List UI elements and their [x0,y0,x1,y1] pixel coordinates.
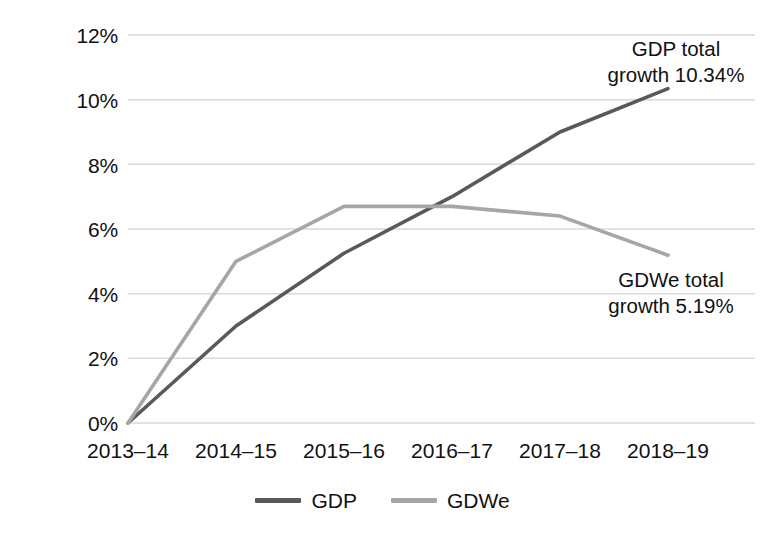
x-tick-label-2: 2015–16 [303,440,385,461]
series-line-gdp [128,89,668,423]
legend-item-gdwe[interactable]: GDWe [391,490,510,511]
legend-swatch-gdp-icon [255,498,301,503]
legend-label-gdp: GDP [311,490,357,511]
x-tick-label-4: 2017–18 [519,440,601,461]
legend-label-gdwe: GDWe [447,490,510,511]
annotation-gdp-line2: growth 10.34% [592,62,760,88]
x-tick-label-3: 2016–17 [411,440,493,461]
annotation-gdwe-line2: growth 5.19% [582,293,760,319]
annotation-gdwe-total-growth: GDWe total growth 5.19% [582,267,760,319]
legend-item-gdp[interactable]: GDP [255,490,357,511]
chart-legend: GDP GDWe [0,484,765,516]
legend-swatch-gdwe-icon [391,498,437,503]
x-tick-label-0: 2013–14 [87,440,169,461]
x-tick-label-5: 2018–19 [627,440,709,461]
x-tick-label-1: 2014–15 [195,440,277,461]
x-axis: 2013–14 2014–15 2015–16 2016–17 2017–18 … [0,436,765,470]
series-lines [128,89,668,423]
annotation-gdp-line1: GDP total [592,36,760,62]
line-chart: 12% 10% 8% 6% 4% 2% 0% 2013–14 2014–15 2… [0,0,765,533]
annotation-gdwe-line1: GDWe total [582,267,760,293]
annotation-gdp-total-growth: GDP total growth 10.34% [592,36,760,88]
